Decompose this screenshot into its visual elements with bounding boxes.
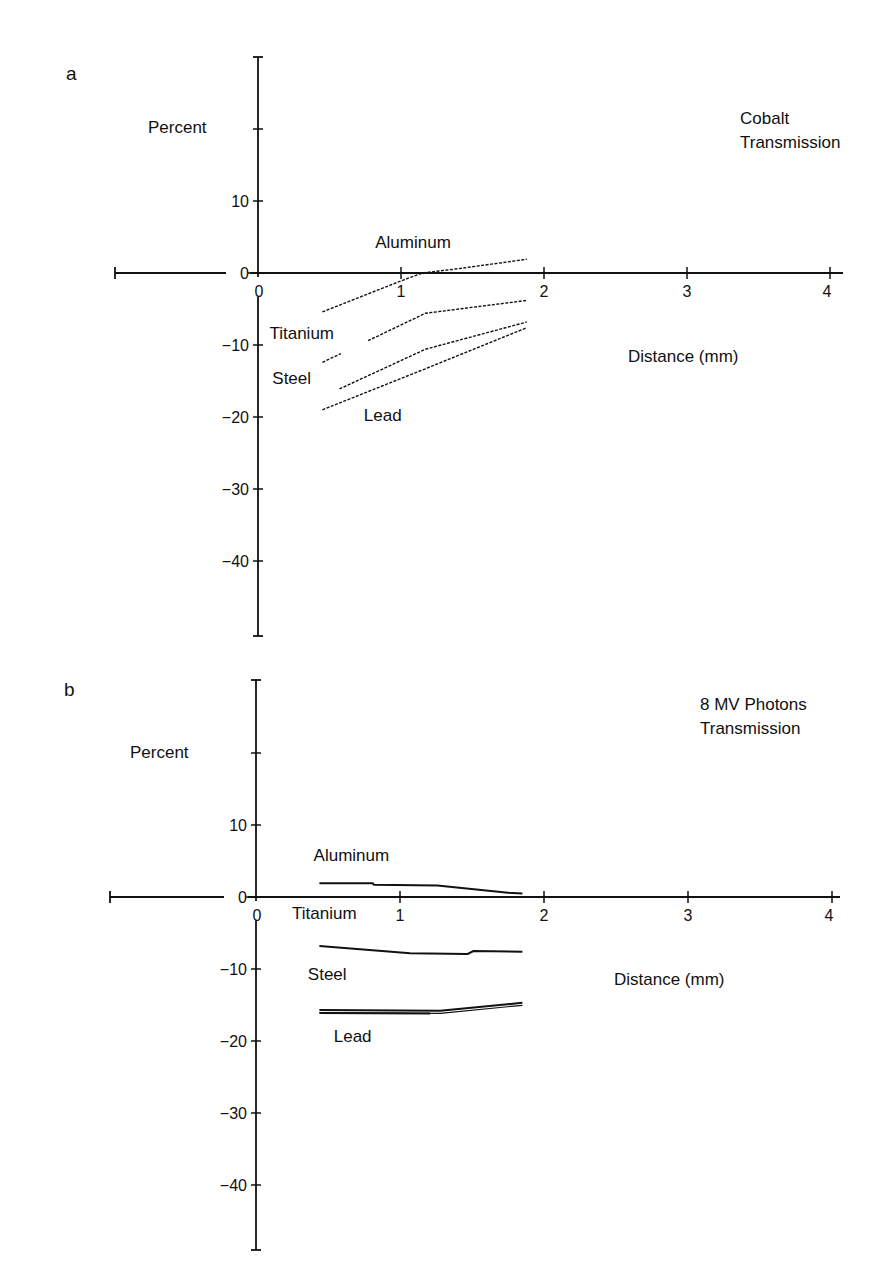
y-axis-label: Percent [130,743,189,762]
y-tick-label: −20 [220,1033,247,1050]
series-titanium: Titanium [292,904,522,954]
data-line [319,1003,522,1011]
y-tick-label: −40 [220,1177,247,1194]
x-tick-label: 0 [253,907,262,924]
panel-label: a [66,63,77,84]
x-tick-label: 3 [683,283,692,300]
y-tick-label: −40 [222,553,249,570]
panel-b: b100−10−20−30−4001234PercentDistance (mm… [64,679,840,1250]
x-tick-label: 2 [540,283,549,300]
data-line [322,259,526,312]
y-axis-label: Percent [148,118,207,137]
data-line [319,1013,430,1014]
x-axis-label: Distance (mm) [628,347,739,366]
x-tick-label: 4 [825,907,834,924]
y-tick-label: 0 [240,265,249,282]
data-line [319,946,522,954]
data-line [340,322,527,389]
series-lead: Lead [319,1013,430,1047]
y-tick-label: 0 [238,889,247,906]
panel-a: a100−10−20−30−4001234PercentDistance (mm… [66,57,843,636]
figure: a100−10−20−30−4001234PercentDistance (mm… [0,0,892,1280]
x-tick-label: 4 [823,283,832,300]
data-line [322,328,526,410]
data-line [322,354,341,363]
chart-title: Transmission [700,719,800,738]
y-tick-label: −10 [222,337,249,354]
y-tick-label: −30 [222,481,249,498]
series-label: Titanium [269,324,334,343]
chart-title: Cobalt [740,109,789,128]
series-label: Titanium [292,904,357,923]
x-tick-label: 1 [397,283,406,300]
series-label: Lead [334,1027,372,1046]
chart-title: 8 MV Photons [700,695,807,714]
series-titanium: Titanium [269,300,526,362]
y-tick-label: −20 [222,409,249,426]
panel-label: b [64,679,75,700]
x-tick-label: 1 [396,907,405,924]
series-label: Steel [308,965,347,984]
x-tick-label: 3 [684,907,693,924]
y-tick-label: 10 [231,193,249,210]
x-axis-label: Distance (mm) [614,970,725,989]
chart-canvas: a100−10−20−30−4001234PercentDistance (mm… [0,0,892,1280]
series-steel: Steel [308,965,523,1014]
series-label: Aluminum [375,233,451,252]
y-tick-label: −30 [220,1105,247,1122]
data-line [368,300,527,340]
series-label: Lead [364,406,402,425]
x-tick-label: 2 [540,907,549,924]
series-lead: Lead [322,328,526,425]
series-aluminum: Aluminum [314,846,523,893]
data-line [319,883,522,893]
y-tick-label: 10 [229,817,247,834]
series-label: Steel [272,369,311,388]
chart-title: Transmission [740,133,840,152]
series-label: Aluminum [314,846,390,865]
y-tick-label: −10 [220,961,247,978]
x-tick-label: 0 [255,283,264,300]
